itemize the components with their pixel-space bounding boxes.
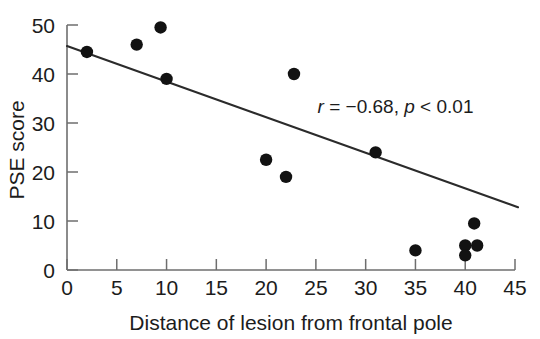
data-point: [409, 244, 421, 256]
y-tick-label: 50: [32, 14, 55, 37]
data-point: [288, 68, 300, 80]
data-point: [160, 73, 172, 85]
x-tick-label: 35: [404, 276, 427, 299]
x-axis-tick-labels: 051015202530354045: [61, 276, 527, 299]
x-tick-label: 45: [503, 276, 526, 299]
data-point: [81, 46, 93, 58]
y-tick-label: 20: [32, 161, 55, 184]
y-axis-tick-labels: 01020304050: [32, 14, 55, 282]
plot-canvas: 01020304050 051015202530354045 PSE score…: [0, 0, 540, 339]
data-point: [260, 154, 272, 166]
data-point: [471, 239, 483, 251]
x-axis-ticks: [67, 259, 515, 270]
data-point: [369, 146, 381, 158]
x-tick-label: 25: [304, 276, 327, 299]
annotation-p-symbol: p: [403, 96, 415, 117]
x-tick-label: 5: [111, 276, 123, 299]
x-tick-label: 15: [205, 276, 228, 299]
y-axis-ticks: [67, 25, 78, 270]
data-point: [154, 21, 166, 33]
annotation-r-value: −0.68,: [346, 96, 399, 117]
correlation-annotation: r = −0.68, p < 0.01: [318, 96, 474, 117]
scatter-plot-figure: 01020304050 051015202530354045 PSE score…: [0, 0, 540, 339]
annotation-r-relation: =: [324, 96, 346, 117]
y-tick-label: 0: [43, 259, 55, 282]
x-tick-label: 20: [254, 276, 277, 299]
annotation-p-value: 0.01: [436, 96, 473, 117]
y-tick-label: 30: [32, 112, 55, 135]
y-axis-title: PSE score: [5, 100, 28, 199]
x-axis-title: Distance of lesion from frontal pole: [129, 311, 452, 334]
x-tick-label: 10: [155, 276, 178, 299]
x-tick-label: 30: [354, 276, 377, 299]
data-point-group: [81, 21, 484, 261]
data-point: [130, 38, 142, 50]
x-tick-label: 0: [61, 276, 73, 299]
y-tick-label: 40: [32, 63, 55, 86]
x-tick-label: 40: [454, 276, 477, 299]
y-tick-label: 10: [32, 210, 55, 233]
annotation-p-relation: <: [415, 96, 437, 117]
data-point: [459, 249, 471, 261]
data-point: [468, 217, 480, 229]
data-point: [280, 171, 292, 183]
